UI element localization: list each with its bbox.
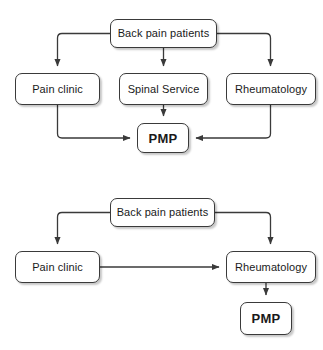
node-label-t-rheum: Rheumatology xyxy=(235,84,307,95)
edge-painclinic-to-pmp xyxy=(58,105,131,138)
node-b-pain-clinic: Pain clinic xyxy=(15,251,100,283)
node-label-b-pmp: PMP xyxy=(251,312,280,325)
edge-backpain-to-rheumatology xyxy=(217,34,271,67)
node-label-t-back-pain: Back pain patients xyxy=(118,28,210,39)
node-label-t-pain-clinic: Pain clinic xyxy=(32,84,83,95)
node-t-back-pain: Back pain patients xyxy=(110,19,217,48)
edge-backpain-to-rheumatology xyxy=(215,213,271,245)
node-label-b-pain-clinic: Pain clinic xyxy=(32,262,83,273)
node-b-pmp: PMP xyxy=(240,302,292,335)
node-label-t-pmp: PMP xyxy=(148,132,177,145)
node-b-rheum: Rheumatology xyxy=(226,251,316,283)
node-label-b-back-pain: Back pain patients xyxy=(117,207,209,218)
node-t-pain-clinic: Pain clinic xyxy=(15,73,100,105)
top-flowchart-panel: Back pain patientsPain clinicSpinal Serv… xyxy=(0,0,323,175)
bottom-flowchart-panel: Back pain patientsPain clinicRheumatolog… xyxy=(0,175,323,350)
node-t-pmp: PMP xyxy=(137,123,189,153)
node-t-rheum: Rheumatology xyxy=(226,73,316,105)
edge-backpain-to-painclinic xyxy=(58,213,111,245)
edge-rheumatology-to-pmp xyxy=(196,105,271,138)
node-t-spinal: Spinal Service xyxy=(119,73,208,105)
node-label-t-spinal: Spinal Service xyxy=(128,84,200,95)
edge-backpain-to-painclinic xyxy=(58,34,111,67)
node-label-b-rheum: Rheumatology xyxy=(235,262,307,273)
node-b-back-pain: Back pain patients xyxy=(110,198,215,227)
